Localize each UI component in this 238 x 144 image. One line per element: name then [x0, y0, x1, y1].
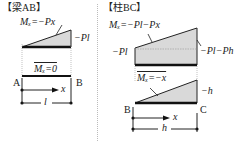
beam-ab-moment-equation: Mₓ=−Px — [20, 17, 55, 27]
column-bc-right-value: −Pl−Ph — [200, 46, 234, 56]
beam-ab-virtual-moment: Mₓ=0 — [34, 64, 57, 74]
node-a-label: A — [13, 78, 20, 88]
beam-ab-x-axis-label: x — [61, 84, 65, 94]
beam-ab-end-value: −Pl — [74, 33, 90, 43]
node-b-label-column: B — [124, 105, 131, 115]
column-bc-virtual-diagram — [135, 80, 197, 103]
beam-ab-header: 【梁AB】 — [2, 3, 46, 13]
column-bc-header: 【柱BC】 — [103, 3, 146, 13]
column-bc-x-axis-label: x — [173, 112, 177, 122]
column-bc-moment-equation: Mₓ=−Pl−Px — [109, 20, 160, 30]
node-b-label: B — [76, 78, 83, 88]
column-bc-virtual-moment: Mₓ=−x — [137, 73, 166, 83]
node-c-label: C — [200, 105, 207, 115]
column-bc-virtual-end-value: −h — [201, 86, 213, 96]
column-bc-left-value: −Pl — [112, 47, 128, 57]
column-bc-length-label: h — [162, 123, 167, 133]
beam-ab-length-label: l — [44, 97, 47, 107]
